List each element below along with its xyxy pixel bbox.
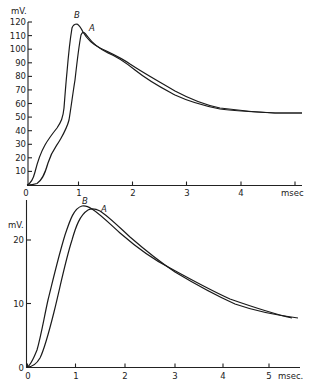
svg-text:120: 120	[10, 17, 26, 27]
top-chart: 10 20 30 40 50 60 70 80 90 100 110 120 m…	[10, 6, 304, 198]
top-curve-a-label: A	[88, 23, 95, 33]
bottom-x-tick-labels: 0 1 2 3 4 5	[25, 371, 271, 381]
svg-text:20: 20	[13, 235, 24, 245]
svg-text:3: 3	[184, 188, 189, 198]
svg-text:3: 3	[172, 371, 177, 381]
svg-text:2: 2	[130, 188, 135, 198]
svg-text:0: 0	[23, 188, 28, 198]
top-curve-b	[27, 24, 302, 185]
svg-text:110: 110	[10, 31, 26, 41]
svg-text:30: 30	[15, 139, 26, 149]
svg-text:90: 90	[15, 58, 26, 68]
bottom-curve-a	[27, 209, 298, 367]
svg-text:100: 100	[10, 44, 26, 54]
svg-text:0: 0	[19, 363, 24, 373]
svg-text:2: 2	[122, 371, 127, 381]
svg-text:10: 10	[15, 166, 26, 176]
svg-text:4: 4	[220, 371, 225, 381]
top-curve-b-label: B	[74, 10, 80, 20]
svg-text:10: 10	[13, 299, 24, 309]
top-x-unit: msec	[281, 188, 304, 198]
bottom-y-unit: mV.	[8, 220, 24, 230]
bottom-chart: 0 10 20 mV. 0 1 2 3 4 5 msec. B A	[8, 196, 303, 381]
svg-text:4: 4	[238, 188, 243, 198]
bottom-curve-a-label: A	[100, 204, 107, 214]
top-x-ticks	[79, 182, 296, 186]
svg-text:5: 5	[266, 371, 271, 381]
bottom-x-unit: msec.	[278, 371, 303, 381]
svg-text:20: 20	[15, 153, 26, 163]
svg-text:1: 1	[76, 188, 81, 198]
figure: 10 20 30 40 50 60 70 80 90 100 110 120 m…	[0, 0, 311, 390]
svg-text:50: 50	[15, 112, 26, 122]
top-x-tick-labels: 0 1 2 3 4	[23, 188, 243, 198]
svg-text:0: 0	[25, 371, 30, 381]
svg-text:60: 60	[15, 99, 26, 109]
top-y-unit: mV.	[11, 6, 27, 16]
bottom-y-tick-labels: 0 10 20	[13, 235, 24, 373]
svg-text:1: 1	[73, 371, 78, 381]
top-y-tick-labels: 10 20 30 40 50 60 70 80 90 100 110 120	[10, 17, 26, 176]
bottom-curve-b-label: B	[82, 196, 88, 206]
svg-text:80: 80	[15, 71, 26, 81]
svg-text:70: 70	[15, 85, 26, 95]
svg-text:40: 40	[15, 126, 26, 136]
bottom-x-ticks	[28, 364, 270, 368]
bottom-curve-b	[27, 206, 292, 367]
bottom-y-ticks	[27, 240, 32, 304]
top-y-ticks	[28, 22, 32, 171]
